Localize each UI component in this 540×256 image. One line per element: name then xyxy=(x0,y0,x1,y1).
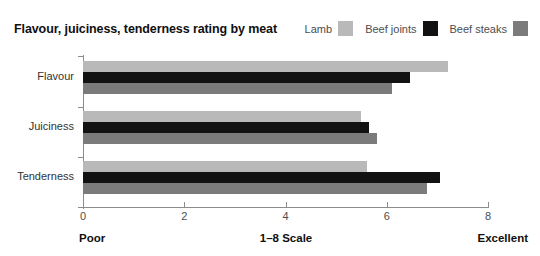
legend-item-lamb[interactable]: Lamb xyxy=(305,21,354,36)
chart-title: Flavour, juiciness, tenderness rating by… xyxy=(14,22,277,36)
bar-group-flavour: Flavour xyxy=(83,61,488,95)
scale-label-middle: 1–8 Scale xyxy=(260,232,312,244)
bar-flavour-beef-joints[interactable] xyxy=(83,72,410,83)
x-axis-tick-label: 8 xyxy=(485,210,491,222)
bar-flavour-beef-steaks[interactable] xyxy=(83,83,392,94)
x-axis-tick xyxy=(387,202,388,207)
x-axis-tick-label: 2 xyxy=(181,210,187,222)
scale-label-excellent: Excellent xyxy=(478,232,529,244)
chart-legend: Lamb Beef joints Beef steaks xyxy=(293,21,528,36)
plot-area: Flavour Juiciness Tenderness xyxy=(83,57,488,207)
category-label-tenderness: Tenderness xyxy=(17,169,74,183)
legend-swatch-beef-joints xyxy=(423,21,438,36)
category-label-flavour: Flavour xyxy=(37,69,74,83)
legend-item-beef-steaks[interactable]: Beef steaks xyxy=(450,21,528,36)
legend-swatch-lamb xyxy=(338,21,353,36)
legend-label-beef-joints: Beef joints xyxy=(365,23,416,35)
legend-label-lamb: Lamb xyxy=(305,23,333,35)
bar-tenderness-beef-steaks[interactable] xyxy=(83,183,427,194)
bar-juiciness-beef-steaks[interactable] xyxy=(83,133,377,144)
bar-group-juiciness: Juiciness xyxy=(83,111,488,145)
x-axis-tick xyxy=(286,202,287,207)
x-axis-line xyxy=(83,207,489,208)
bar-juiciness-lamb[interactable] xyxy=(83,111,361,122)
x-axis-tick-label: 4 xyxy=(282,210,288,222)
legend-item-beef-joints[interactable]: Beef joints xyxy=(365,21,437,36)
scale-label-poor: Poor xyxy=(79,232,105,244)
bar-juiciness-beef-joints[interactable] xyxy=(83,122,369,133)
bar-tenderness-beef-joints[interactable] xyxy=(83,172,440,183)
bar-group-tenderness: Tenderness xyxy=(83,161,488,195)
category-label-juiciness: Juiciness xyxy=(29,119,74,133)
bar-tenderness-lamb[interactable] xyxy=(83,161,367,172)
x-axis-tick xyxy=(184,202,185,207)
x-axis-tick-label: 6 xyxy=(384,210,390,222)
legend-swatch-beef-steaks xyxy=(513,21,528,36)
y-axis-tick xyxy=(78,207,83,208)
x-axis-tick-label: 0 xyxy=(80,210,86,222)
bar-flavour-lamb[interactable] xyxy=(83,61,448,72)
x-axis-tick xyxy=(488,202,489,207)
x-axis-tick xyxy=(83,202,84,207)
legend-label-beef-steaks: Beef steaks xyxy=(450,23,507,35)
